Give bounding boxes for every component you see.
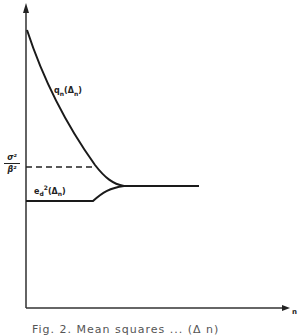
lower-curve-label: ed2(Δn) [34,184,66,197]
x-axis-arrow-icon [282,305,290,311]
x-axis-label: n [292,308,297,316]
fraction-numerator: σ² [7,153,17,162]
fraction-denominator: β² [7,165,16,174]
upper-curve-label: qn(Δn) [54,86,82,97]
y-axis-arrow-icon [23,3,29,13]
figure-caption: Fig. 2. Mean squares ... (Δ n) [32,323,219,336]
fraction-bar [4,163,20,164]
asymptote-fraction-label: σ² β² [2,153,22,174]
upper-curve-q [27,30,124,186]
